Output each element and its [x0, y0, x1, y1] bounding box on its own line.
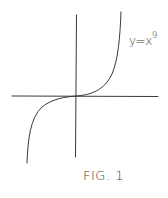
- y-axis: [76, 15, 77, 157]
- x-axis: [12, 96, 158, 97]
- curve-x-to-the-ninth: [27, 12, 121, 163]
- figure-caption: FIG. 1: [83, 168, 124, 183]
- equation-label: y=x9: [129, 32, 157, 48]
- equation-exponent: 9: [152, 30, 157, 40]
- equation-base: y=x: [129, 34, 152, 48]
